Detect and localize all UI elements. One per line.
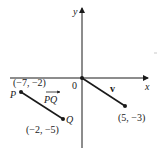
vector-v-endpoint xyxy=(123,104,127,108)
vector-pq-label: PQ xyxy=(43,94,58,105)
vector-diagram: x y 0 v (5, −3) P Q (−7, −2) (−2, −5) PQ xyxy=(0,0,162,153)
origin-label: 0 xyxy=(72,80,77,91)
point-p-label: P xyxy=(9,89,16,100)
point-q-label: Q xyxy=(66,114,74,125)
x-axis-label: x xyxy=(144,81,150,92)
point-p-coords: (−7, −2) xyxy=(13,77,46,89)
point-q xyxy=(61,117,65,121)
point-q-coords: (−2, −5) xyxy=(26,124,59,136)
point-p xyxy=(19,90,23,94)
vector-v-endpoint-coords: (5, −3) xyxy=(118,112,145,124)
vector-v xyxy=(82,78,125,106)
y-axis-label: y xyxy=(72,6,78,17)
vector-v-label: v xyxy=(110,83,115,94)
